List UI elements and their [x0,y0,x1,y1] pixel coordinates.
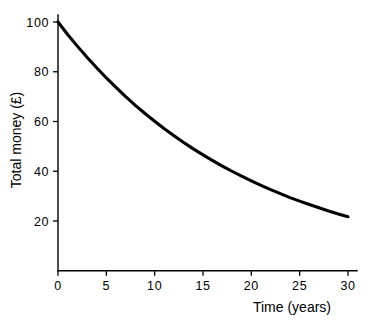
x-tick-label-15: 15 [195,279,210,293]
x-tick-label-30: 30 [340,279,355,293]
x-axis-ticks [58,271,348,276]
y-tick-label-20: 20 [34,215,49,229]
y-tick-label-40: 40 [34,165,49,179]
x-tick-label-25: 25 [292,279,307,293]
x-tick-label-20: 20 [244,279,259,293]
y-axis-ticks [53,22,58,221]
x-axis-title: Time (years) [253,299,331,315]
x-tick-label-5: 5 [103,279,111,293]
chart-figure: 051015202530 20406080100 Time (years) To… [0,0,373,333]
y-tick-label-60: 60 [34,115,49,129]
x-tick-label-0: 0 [54,279,62,293]
axes-group [58,15,357,271]
y-tick-label-100: 100 [26,16,49,30]
y-tick-label-80: 80 [34,65,49,79]
line-chart-svg: 051015202530 20406080100 Time (years) To… [0,0,373,333]
x-axis-tick-labels: 051015202530 [54,279,355,293]
data-series-curve [58,22,348,217]
y-axis-tick-labels: 20406080100 [26,16,49,229]
y-axis-title: Total money (£) [8,92,24,188]
x-tick-label-10: 10 [147,279,162,293]
